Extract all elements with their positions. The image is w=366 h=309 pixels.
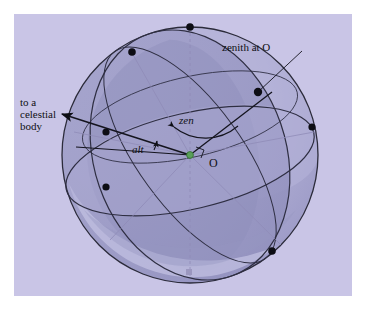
top-point-marker (186, 23, 194, 31)
upper-left-point-marker (128, 48, 136, 56)
nadir-point-marker (186, 269, 192, 275)
lower-right-point-marker (268, 247, 276, 255)
lower-left-point-marker (102, 183, 109, 190)
zenith-point-marker (254, 88, 262, 96)
celestial-body-label-line2: celestial (20, 109, 56, 121)
body-on-sphere-marker (102, 128, 109, 135)
celestial-sphere-drawing (14, 14, 352, 296)
alt-label: alt (132, 144, 144, 156)
celestial-body-label-line1: to a (20, 97, 36, 109)
zen-label: zen (179, 115, 194, 127)
origin-label: O (209, 158, 218, 170)
zenith-label: zenith at O (222, 42, 270, 54)
right-point-marker (308, 123, 315, 130)
figure-panel: zenith at O to a celestial body zen alt … (14, 14, 352, 296)
celestial-body-label-line3: body (20, 121, 42, 133)
observer-point-marker (187, 152, 194, 159)
celestial-sphere-figure: zenith at O to a celestial body zen alt … (0, 0, 366, 309)
